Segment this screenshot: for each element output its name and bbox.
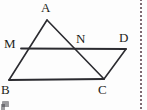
vertex-label-c: C xyxy=(98,83,107,96)
vertex-label-b: B xyxy=(1,83,10,96)
segment-bc xyxy=(9,79,104,80)
vertex-label-m: M xyxy=(4,37,16,50)
cropped-text-artifact-secondary xyxy=(1,104,5,110)
dotted-page-divider xyxy=(140,0,142,110)
vertex-label-d: D xyxy=(119,31,128,44)
vertex-label-a: A xyxy=(41,1,50,14)
vertex-label-n: N xyxy=(76,32,85,45)
segment-md xyxy=(21,49,126,50)
geometry-figure-screenshot: A M N D B C xyxy=(0,0,147,110)
segment-cd xyxy=(104,49,126,79)
geometry-diagram-canvas xyxy=(0,0,147,110)
